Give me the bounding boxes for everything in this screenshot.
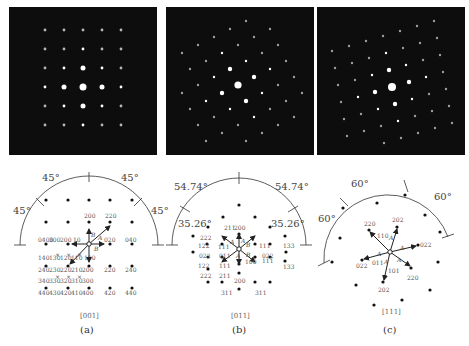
angle-label: 45°	[42, 172, 60, 183]
spot-label: 220	[364, 220, 376, 227]
vector-label: A	[229, 238, 235, 245]
spot	[436, 260, 439, 263]
spot-label: 122	[198, 242, 210, 249]
spot	[253, 280, 256, 283]
spot-label: 220	[60, 266, 72, 273]
spot-label: 420	[104, 289, 116, 296]
vector-label: A	[388, 234, 394, 241]
spot	[283, 234, 286, 237]
transmitted-beam	[237, 247, 241, 251]
spot	[130, 198, 133, 201]
spot-label: 222	[200, 234, 212, 241]
spot	[428, 288, 431, 291]
spot	[409, 266, 412, 269]
transmitted-beam	[388, 250, 392, 254]
spot	[108, 220, 111, 223]
vector-label: A	[235, 252, 241, 259]
angle-label: 60°	[351, 178, 369, 189]
vector-label: B	[93, 245, 99, 252]
indexed-diagrams: 45° 45° 45° 45° ××××××200220040030020010…	[0, 0, 469, 346]
spot-label: 200	[82, 266, 94, 273]
spot-label: 440	[125, 289, 137, 296]
spot-label: 022	[199, 252, 211, 259]
tick-c	[404, 180, 408, 192]
vector-label: B	[245, 241, 251, 248]
vector-label: A	[376, 250, 382, 257]
spot	[66, 198, 69, 201]
spot	[220, 280, 223, 283]
spot-label: 300	[82, 277, 94, 284]
spot-label: 220	[407, 274, 419, 281]
spot-label: 110	[377, 232, 389, 239]
tick-c	[442, 234, 454, 238]
spot-label: 133	[283, 263, 295, 270]
spot	[237, 287, 240, 290]
spot-label: 111	[259, 242, 270, 249]
spot	[206, 280, 209, 283]
spot-label: 100	[245, 258, 257, 265]
angle-label: 45°	[121, 172, 139, 183]
spot-label: 133	[283, 242, 295, 249]
spot-label: 200	[234, 277, 246, 284]
spot	[354, 283, 357, 286]
spot-label: 122	[198, 262, 210, 269]
spot	[237, 203, 240, 206]
spot-label: 200	[84, 212, 96, 219]
spot	[330, 260, 333, 263]
vector-label: B	[245, 251, 251, 258]
panel-caption: (a)	[80, 324, 94, 335]
panel-c: 60° 60° 60° 202220110022022011101220202A…	[318, 178, 454, 335]
spot-label: 111	[262, 257, 273, 264]
spot	[395, 225, 398, 228]
vector-label: A	[97, 234, 103, 241]
angle-label: 54.74°	[174, 181, 208, 192]
panel-caption: (b)	[232, 324, 246, 335]
spot	[438, 230, 441, 233]
spot-label: 022	[420, 241, 432, 248]
spot-label: 420	[60, 289, 72, 296]
panel-caption: (c)	[383, 324, 397, 335]
zone-axis-label: [011]	[231, 312, 250, 320]
spot	[268, 280, 271, 283]
spot-label: 10	[73, 236, 81, 243]
angle-label: 60°	[434, 191, 452, 202]
spot	[44, 198, 47, 201]
tick-ul-a	[36, 198, 44, 206]
spot-label: 311	[221, 289, 232, 296]
spot	[191, 250, 194, 253]
spot-label: 011	[372, 259, 383, 266]
spot	[44, 220, 47, 223]
spot-label: 202	[378, 286, 390, 293]
spot-label: 240	[125, 266, 137, 273]
spot-label: 340	[38, 277, 50, 284]
spot-label: 330	[49, 277, 61, 284]
spot-label: 111	[218, 243, 229, 250]
spot-label: 022	[356, 262, 368, 269]
spot	[375, 201, 378, 204]
spot-label: 130	[49, 254, 61, 261]
spot	[403, 193, 406, 196]
spot-label: 400	[82, 289, 94, 296]
spot	[66, 220, 69, 223]
spot-label: 210	[71, 266, 83, 273]
spot-label: 202	[392, 216, 404, 223]
spot	[381, 280, 384, 283]
vector-label: A	[399, 244, 405, 251]
spot-label: 120	[60, 254, 72, 261]
zone-axis-label: [001]	[80, 312, 99, 320]
spot	[191, 234, 194, 237]
spot-label: 410	[71, 289, 83, 296]
zone-axis-label: [111]	[382, 308, 401, 316]
spot	[400, 298, 403, 301]
spot-label: 011	[219, 252, 230, 259]
spot	[206, 225, 209, 228]
spot-label: 040	[125, 236, 137, 243]
vector-label: A	[383, 258, 389, 265]
angle-label: 35.26°	[271, 218, 305, 229]
spot	[87, 198, 90, 201]
spot-label: 430	[49, 289, 61, 296]
tick-c	[340, 198, 348, 206]
spot	[341, 206, 344, 209]
spot-label: 311	[255, 289, 266, 296]
angle-label: 45°	[13, 205, 31, 216]
